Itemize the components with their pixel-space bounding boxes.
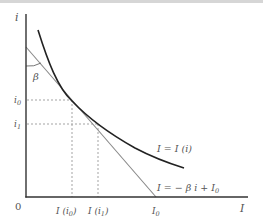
beta-label: β [32,71,39,82]
x-axis-label: I [239,202,245,215]
curve-label: I = I (i) [156,143,192,154]
beta-angle-arc [26,63,41,66]
origin-label: 0 [15,201,21,212]
diagram: i I 0 β i0 i1 I (i0) I (i1) I0 I = I (i)… [0,0,263,221]
x-tick-I-i1: I (i1) [87,206,109,218]
x-tick-I0: I0 [151,206,160,218]
tangent-line [26,47,156,197]
y-tick-i1: i1 [14,119,21,131]
x-tick-I-i0: I (i0) [55,206,77,218]
tangent-line-label: I = − β i + I0 [156,182,219,195]
y-axis-label: i [15,11,19,24]
y-tick-i0: i0 [14,95,21,107]
